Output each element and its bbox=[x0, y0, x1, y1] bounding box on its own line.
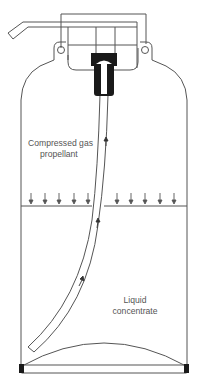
arrow-down-icon bbox=[29, 193, 33, 204]
arrow-down-icon bbox=[72, 193, 76, 204]
domed-bottom bbox=[22, 343, 186, 366]
arrow-down-icon bbox=[143, 193, 147, 204]
arrow-down-icon bbox=[172, 193, 176, 204]
valve bbox=[91, 53, 117, 96]
label-liquid-line2: concentrate bbox=[113, 306, 158, 316]
label-gas-line2: propellant bbox=[40, 149, 78, 159]
arrow-down-icon bbox=[86, 193, 90, 204]
actuator-frame bbox=[8, 14, 146, 68]
dip-tube bbox=[28, 95, 108, 352]
base-foot-left bbox=[19, 364, 24, 373]
label-gas-line1: Compressed gas bbox=[28, 138, 93, 148]
hinge-left bbox=[54, 42, 66, 60]
arrow-down-icon bbox=[57, 193, 61, 204]
arrow-down-icon bbox=[129, 193, 133, 204]
base-band bbox=[22, 365, 186, 373]
aerosol-can-diagram: Compressed gas propellant Liquid concent… bbox=[0, 0, 198, 386]
arrow-down-icon bbox=[158, 193, 162, 204]
label-liquid-line1: Liquid bbox=[124, 295, 147, 305]
base-foot-right bbox=[184, 364, 189, 373]
arrow-down-icon bbox=[43, 193, 47, 204]
arrow-down-icon bbox=[115, 193, 119, 204]
pressure-arrows bbox=[29, 193, 176, 204]
hinge-right bbox=[140, 42, 152, 60]
